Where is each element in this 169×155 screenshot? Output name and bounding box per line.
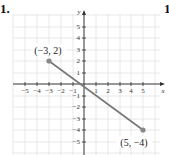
svg-text:5: 5 xyxy=(141,87,145,95)
svg-text:−3: −3 xyxy=(45,87,53,95)
svg-text:3: 3 xyxy=(77,46,81,54)
y-axis-arrow-icon xyxy=(82,10,86,15)
svg-text:1: 1 xyxy=(77,69,81,77)
svg-text:−2: −2 xyxy=(57,87,65,95)
point-start-label: (−3, 2) xyxy=(34,45,61,57)
point-start xyxy=(46,58,51,63)
coordinate-plane: −5 −4 −3 −2 −1 1 2 3 4 5 5 4 3 2 1 −1 −2… xyxy=(0,0,169,155)
svg-text:−1: −1 xyxy=(73,92,81,100)
svg-text:−5: −5 xyxy=(21,87,29,95)
svg-text:4: 4 xyxy=(129,87,133,95)
svg-text:−2: −2 xyxy=(73,103,81,111)
x-axis-arrow-icon xyxy=(160,82,165,86)
x-axis-label: x xyxy=(160,87,165,95)
svg-text:5: 5 xyxy=(77,23,81,31)
svg-text:2: 2 xyxy=(106,87,110,95)
svg-text:3: 3 xyxy=(118,87,122,95)
point-end xyxy=(140,127,145,132)
axes xyxy=(13,12,162,155)
svg-text:−4: −4 xyxy=(33,87,41,95)
svg-text:−3: −3 xyxy=(73,115,81,123)
svg-text:−4: −4 xyxy=(73,126,81,134)
svg-text:2: 2 xyxy=(77,57,81,65)
point-end-label: (5, −4) xyxy=(120,137,147,149)
svg-text:4: 4 xyxy=(77,34,81,42)
svg-text:−5: −5 xyxy=(73,138,81,146)
